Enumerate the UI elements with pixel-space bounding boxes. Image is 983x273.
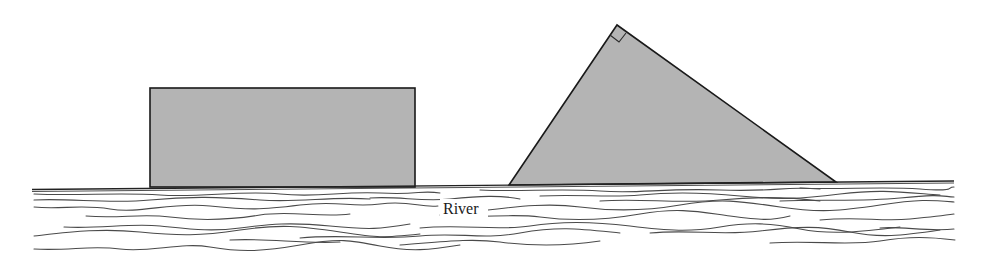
river-label: River <box>443 200 479 217</box>
river-waves <box>34 187 955 251</box>
river-diagram: River <box>0 0 983 273</box>
rectangle-shape <box>150 88 415 187</box>
right-triangle-shape <box>509 25 836 185</box>
